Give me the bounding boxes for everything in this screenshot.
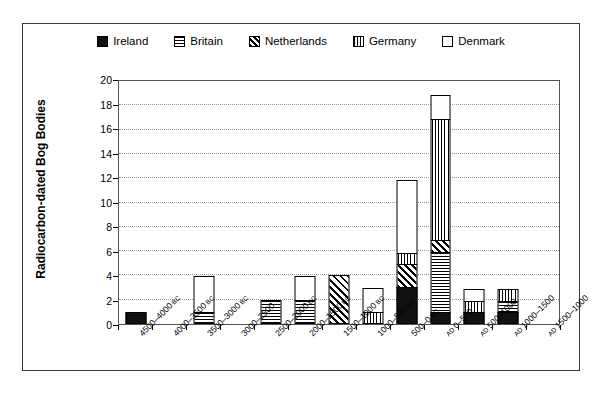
legend-label: Germany: [369, 36, 416, 48]
x-axis-tick-label: 1000–500 BC: [375, 331, 382, 338]
plot-area: [118, 80, 560, 325]
y-axis-ticks: 02468101214161820: [83, 80, 118, 325]
bar-group[interactable]: [491, 81, 525, 324]
y-tick-label: 6: [106, 246, 112, 258]
bar-group[interactable]: [424, 81, 458, 324]
x-axis-labels: 4500–4000 BC4000–3500 BC3500–3000 BC3000…: [118, 329, 560, 395]
legend-swatch-icon: [353, 36, 364, 47]
bar-stack: [125, 313, 146, 324]
bar-segment-britain: [430, 252, 451, 313]
legend-entry-netherlands: Netherlands: [249, 36, 327, 48]
x-axis-tick-label: 500–0 BC: [409, 331, 416, 338]
legend-entry-britain: Britain: [174, 36, 223, 48]
y-tick-label: 18: [100, 99, 112, 111]
bar-group[interactable]: [221, 81, 255, 324]
x-axis-tick-label: 2000–1500 BC: [307, 331, 314, 338]
legend-swatch-icon: [97, 36, 108, 47]
bar-group[interactable]: [390, 81, 424, 324]
legend-entry-ireland: Ireland: [97, 36, 148, 48]
bar-group[interactable]: [356, 81, 390, 324]
y-axis-title-text: Radiocarbon-dated Bog Bodies: [34, 99, 48, 278]
bar-segment-denmark: [396, 180, 417, 254]
legend-label: Netherlands: [265, 36, 327, 48]
bar-segment-netherlands: [396, 264, 417, 289]
chart-legend: IrelandBritainNetherlandsGermanyDenmark: [23, 36, 579, 48]
y-tick-label: 20: [100, 74, 112, 86]
x-axis-tick-label: AD 500–1000: [477, 331, 484, 338]
bar-stack: [430, 96, 451, 324]
x-axis-tick-label: AD 1000–1500: [511, 331, 518, 338]
x-axis-tick-label: 4000–3500 BC: [171, 331, 178, 338]
y-tick-label: 0: [106, 319, 112, 331]
bar-group[interactable]: [457, 81, 491, 324]
bar-group[interactable]: [119, 81, 153, 324]
bar-group[interactable]: [525, 81, 559, 324]
x-axis-tick-label: 4500–4000 BC: [137, 331, 144, 338]
x-axis-tick-label: AD 1500–1000: [545, 331, 552, 338]
y-tick-label: 12: [100, 172, 112, 184]
y-tick-label: 8: [106, 221, 112, 233]
legend-swatch-icon: [249, 36, 260, 47]
bar-group[interactable]: [187, 81, 221, 324]
bar-group[interactable]: [153, 81, 187, 324]
y-axis-title: Radiocarbon-dated Bog Bodies: [31, 64, 51, 314]
legend-label: Ireland: [113, 36, 148, 48]
y-tick-label: 4: [106, 270, 112, 282]
y-tick-label: 16: [100, 123, 112, 135]
legend-entry-denmark: Denmark: [442, 36, 505, 48]
legend-swatch-icon: [174, 36, 185, 47]
x-axis-tick-label: 2500–2000 BC: [273, 331, 280, 338]
x-axis-tick-label: 3500–3000 BC: [205, 331, 212, 338]
bar-segment-denmark: [430, 95, 451, 120]
bars-layer: [119, 81, 559, 324]
legend-swatch-icon: [442, 36, 453, 47]
x-axis-tick-label: 1500–1000 BC: [341, 331, 348, 338]
bar-segment-ireland: [125, 312, 146, 324]
bar-group[interactable]: [254, 81, 288, 324]
y-tick-label: 10: [100, 197, 112, 209]
legend-label: Denmark: [458, 36, 505, 48]
bar-segment-germany: [430, 119, 451, 242]
x-axis-tick-label: 3000–2500: [239, 331, 246, 338]
legend-entry-germany: Germany: [353, 36, 416, 48]
bar-group[interactable]: [322, 81, 356, 324]
figure-frame: IrelandBritainNetherlandsGermanyDenmark …: [22, 23, 580, 371]
y-tick-label: 2: [106, 295, 112, 307]
bar-group[interactable]: [288, 81, 322, 324]
legend-label: Britain: [190, 36, 223, 48]
x-axis-tick-label: AD 0–500: [443, 331, 450, 338]
y-tick-label: 14: [100, 148, 112, 160]
